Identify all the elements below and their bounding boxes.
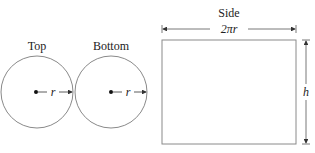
bottom-center-dot bbox=[109, 90, 113, 94]
side-rectangle bbox=[162, 40, 296, 144]
height-label: h bbox=[303, 85, 309, 99]
side-rectangle-group: Side 2πr h bbox=[162, 6, 310, 144]
width-label: 2πr bbox=[221, 22, 238, 36]
bottom-label: Bottom bbox=[93, 39, 130, 53]
side-label: Side bbox=[218, 6, 239, 20]
top-circle-group: Top r bbox=[1, 39, 73, 128]
top-center-dot bbox=[34, 90, 38, 94]
top-radius-label: r bbox=[51, 85, 56, 99]
bottom-circle-group: Bottom r bbox=[75, 39, 147, 128]
cylinder-net-diagram: Top r Bottom r Side 2πr h bbox=[0, 0, 315, 153]
bottom-radius-label: r bbox=[126, 85, 131, 99]
top-label: Top bbox=[28, 39, 47, 53]
